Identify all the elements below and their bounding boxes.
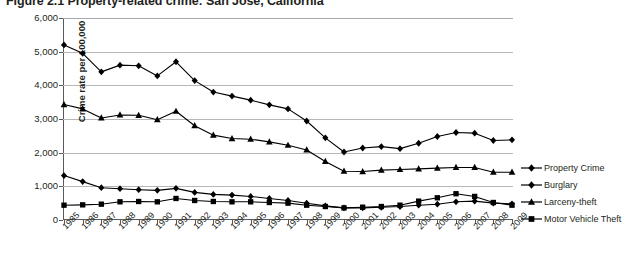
diamond-marker — [98, 184, 104, 191]
diamond-marker — [472, 130, 478, 137]
square-marker — [509, 203, 514, 208]
square-marker — [416, 198, 421, 203]
square-marker — [341, 205, 346, 210]
square-marker — [323, 204, 328, 209]
diamond-marker — [248, 97, 254, 104]
diamond-marker — [416, 140, 422, 147]
plot-area: 6,0005,0004,0003,0002,0001,0000 19851986… — [63, 18, 513, 220]
diamond-marker — [285, 105, 291, 112]
diamond-marker — [397, 145, 403, 152]
square-marker — [136, 199, 141, 204]
legend-label: Motor Vehicle Theft — [544, 215, 621, 224]
square-marker — [267, 200, 272, 205]
square-marker — [360, 205, 365, 210]
figure-container: Figure 2.1 Property-related crime: San J… — [0, 0, 627, 257]
diamond-marker — [154, 72, 160, 79]
y-axis-tick-label: 6,000 — [14, 13, 58, 23]
diamond-marker — [80, 178, 86, 185]
diamond-marker — [61, 172, 67, 179]
square-marker — [491, 200, 496, 205]
diamond-marker — [136, 186, 142, 193]
square-marker — [192, 198, 197, 203]
diamond-marker — [360, 145, 366, 152]
chart-legend: Property CrimeBurglaryLarceny-theftMotor… — [521, 161, 627, 229]
diamond-marker — [434, 133, 440, 140]
square-marker — [453, 191, 458, 196]
figure-number: Figure 2.1 — [6, 0, 64, 8]
diamond-marker — [173, 185, 179, 192]
legend-label: Larceny-theft — [544, 198, 597, 207]
legend-swatch-triangle-icon — [521, 197, 542, 207]
square-marker — [304, 203, 309, 208]
diamond-marker — [117, 62, 123, 69]
square-marker — [173, 196, 178, 201]
diamond-marker — [210, 191, 216, 198]
legend-item-property-crime[interactable]: Property Crime — [521, 161, 627, 175]
series-line — [64, 45, 512, 152]
series-group — [63, 18, 513, 220]
triangle-marker — [61, 101, 68, 107]
legend-label: Burglary — [544, 181, 578, 190]
legend-item-motor-vehicle-theft[interactable]: Motor Vehicle Theft — [521, 212, 627, 226]
diamond-marker — [210, 89, 216, 96]
diamond-marker — [117, 185, 123, 192]
square-marker — [435, 195, 440, 200]
figure-caption: Property-related crime: San Jose, Califo… — [67, 0, 323, 8]
series-line — [64, 105, 512, 173]
square-marker — [248, 199, 253, 204]
triangle-marker — [210, 132, 217, 138]
square-marker — [99, 202, 104, 207]
y-axis-tick-label: 4,000 — [14, 80, 58, 90]
diamond-marker — [136, 62, 142, 69]
y-axis-tick-label: 1,000 — [14, 181, 58, 191]
square-marker — [285, 200, 290, 205]
diamond-marker — [266, 101, 272, 108]
diamond-marker — [528, 181, 535, 188]
square-marker — [211, 199, 216, 204]
diamond-marker — [490, 137, 496, 144]
diamond-marker — [229, 93, 235, 100]
diamond-marker — [61, 42, 67, 49]
y-axis-tick-label: 0 — [14, 215, 58, 225]
series-motor-vehicle-theft — [61, 191, 514, 210]
square-marker — [472, 194, 477, 199]
diamond-marker — [341, 149, 347, 156]
legend-swatch-diamond-icon — [521, 163, 542, 173]
y-axis-tick-label: 3,000 — [14, 114, 58, 124]
diamond-marker — [192, 189, 198, 196]
diamond-marker — [453, 129, 459, 136]
diamond-marker — [229, 192, 235, 199]
legend-label: Property Crime — [544, 164, 605, 173]
legend-swatch-square-icon — [521, 214, 542, 224]
triangle-marker — [173, 108, 180, 114]
diamond-marker — [378, 143, 384, 150]
square-marker — [529, 216, 535, 222]
diamond-marker — [509, 136, 515, 143]
square-marker — [80, 202, 85, 207]
square-marker — [155, 199, 160, 204]
legend-item-larceny-theft[interactable]: Larceny-theft — [521, 195, 627, 209]
legend-item-burglary[interactable]: Burglary — [521, 178, 627, 192]
diamond-marker — [453, 198, 459, 205]
square-marker — [397, 203, 402, 208]
series-property-crime — [61, 42, 515, 156]
figure-title: Figure 2.1 Property-related crime: San J… — [6, 0, 324, 8]
square-marker — [229, 199, 234, 204]
triangle-marker — [322, 158, 329, 164]
triangle-marker — [191, 122, 198, 128]
square-marker — [117, 199, 122, 204]
diamond-marker — [248, 193, 254, 200]
square-marker — [61, 203, 66, 208]
y-axis-tick-label: 2,000 — [14, 148, 58, 158]
diamond-marker — [528, 164, 535, 171]
diamond-marker — [154, 187, 160, 194]
y-axis-tick-label: 5,000 — [14, 47, 58, 57]
square-marker — [379, 204, 384, 209]
diamond-marker — [434, 201, 440, 208]
legend-swatch-diamond-icon — [521, 180, 542, 190]
